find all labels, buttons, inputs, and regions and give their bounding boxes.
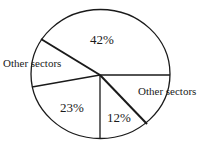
slice-label-42: 42% — [90, 33, 114, 46]
slice-label-12: 12% — [107, 111, 131, 124]
slice-label-other-right: Other sectors — [138, 86, 196, 97]
pie-chart — [0, 0, 201, 141]
slice-label-23: 23% — [60, 101, 84, 114]
slice-label-other-left: Other sectors — [3, 58, 61, 69]
